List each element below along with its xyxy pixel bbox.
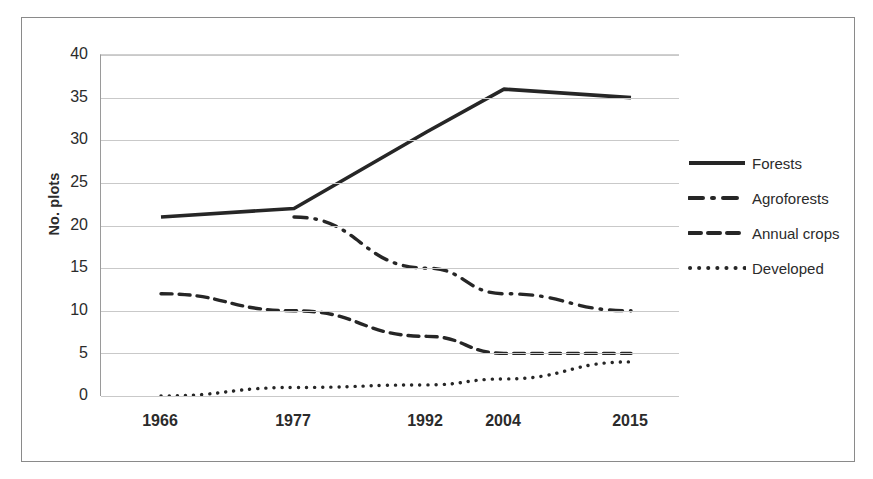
legend-item-developed[interactable]: Developed [688, 255, 824, 281]
solid-line-icon [688, 157, 746, 169]
gridline-10 [101, 311, 679, 312]
series-line-forests [161, 89, 631, 217]
y-tick-15: 15 [48, 258, 88, 276]
y-tick-35: 35 [48, 88, 88, 106]
gridline-25 [101, 183, 679, 184]
y-tick-5: 5 [48, 344, 88, 362]
x-tick-1992: 1992 [380, 412, 470, 430]
gridline-15 [101, 268, 679, 269]
legend-label-agroforests: Agroforests [752, 190, 829, 207]
y-axis-title: No. plots [46, 144, 62, 264]
y-tick-0: 0 [48, 386, 88, 404]
legend-item-annual-crops[interactable]: Annual crops [688, 220, 840, 246]
series-line-annual-crops [161, 294, 631, 354]
legend-label-forests: Forests [752, 155, 802, 172]
y-tick-40: 40 [48, 45, 88, 63]
gridline-35 [101, 98, 679, 99]
gridline-20 [101, 226, 679, 227]
series-line-agroforests [294, 217, 631, 311]
x-tick-2004: 2004 [458, 412, 548, 430]
dash-dot-line-icon [688, 192, 746, 204]
x-tick-1977: 1977 [248, 412, 338, 430]
gridline-40 [101, 55, 679, 56]
legend-label-annual-crops: Annual crops [752, 225, 840, 242]
series-line-developed [161, 362, 631, 396]
plot-area [100, 54, 679, 396]
y-tick-20: 20 [48, 216, 88, 234]
dotted-line-icon [688, 262, 746, 274]
legend-label-developed: Developed [752, 260, 824, 277]
legend-item-agroforests[interactable]: Agroforests [688, 185, 829, 211]
x-tick-2015: 2015 [585, 412, 675, 430]
gridline-30 [101, 140, 679, 141]
legend-item-forests[interactable]: Forests [688, 150, 802, 176]
gridline-0 [101, 396, 679, 397]
y-tick-25: 25 [48, 173, 88, 191]
y-tick-30: 30 [48, 130, 88, 148]
line-chart: No. plots 40 35 30 25 20 15 10 5 0 1966 … [0, 0, 873, 479]
gridline-5 [101, 353, 679, 354]
dashed-line-icon [688, 227, 746, 239]
y-tick-10: 10 [48, 301, 88, 319]
x-tick-1966: 1966 [115, 412, 205, 430]
